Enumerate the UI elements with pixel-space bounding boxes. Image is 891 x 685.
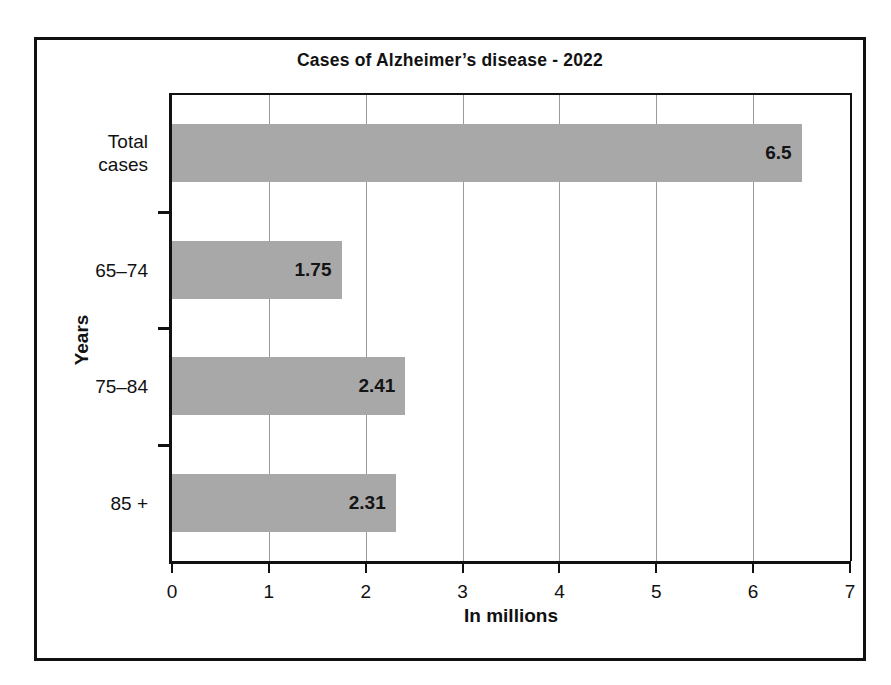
x-axis-tick-label: 4 bbox=[539, 581, 579, 603]
x-axis-tick bbox=[365, 561, 367, 573]
y-axis-category-label: 85 + bbox=[110, 491, 148, 514]
y-axis-category-label: 65–74 bbox=[95, 258, 148, 281]
bar-value-label: 6.5 bbox=[765, 142, 791, 164]
figure-frame: Cases of Alzheimer’s disease - 2022 0123… bbox=[34, 37, 866, 661]
y-axis-tick bbox=[158, 211, 172, 214]
plot-border-top bbox=[172, 93, 850, 95]
y-axis-title: Years bbox=[71, 315, 93, 366]
x-axis-tick bbox=[462, 561, 464, 573]
y-axis-category-label: 75–84 bbox=[95, 375, 148, 398]
bar-row[interactable]: 6.5Total cases bbox=[172, 124, 850, 182]
x-axis-tick-label: 2 bbox=[346, 581, 386, 603]
x-axis-line bbox=[169, 561, 850, 564]
chart-title: Cases of Alzheimer’s disease - 2022 bbox=[37, 50, 863, 71]
x-axis-title: In millions bbox=[172, 605, 850, 627]
x-axis-tick-label: 0 bbox=[152, 581, 192, 603]
x-axis-tick bbox=[849, 561, 851, 573]
plot-area: 01234567 6.5Total cases1.7565–742.4175–8… bbox=[172, 95, 850, 561]
y-axis-category-label: Total cases bbox=[98, 130, 148, 176]
bar-row[interactable]: 2.3185 + bbox=[172, 474, 850, 532]
bar-row[interactable]: 2.4175–84 bbox=[172, 357, 850, 415]
y-axis-tick bbox=[158, 444, 172, 447]
x-axis-tick bbox=[268, 561, 270, 573]
x-axis-tick-label: 6 bbox=[733, 581, 773, 603]
x-axis-tick bbox=[655, 561, 657, 573]
x-axis-tick-label: 1 bbox=[249, 581, 289, 603]
plot-border-right bbox=[850, 93, 852, 561]
x-axis-tick-label: 7 bbox=[830, 581, 870, 603]
bar-value-label: 1.75 bbox=[295, 259, 332, 281]
bar-value-label: 2.31 bbox=[349, 492, 386, 514]
bar[interactable] bbox=[172, 124, 802, 182]
x-axis-tick-label: 3 bbox=[443, 581, 483, 603]
bar-value-label: 2.41 bbox=[358, 375, 395, 397]
x-axis-tick bbox=[752, 561, 754, 573]
x-axis-tick bbox=[558, 561, 560, 573]
x-axis-tick-label: 5 bbox=[636, 581, 676, 603]
bar-row[interactable]: 1.7565–74 bbox=[172, 241, 850, 299]
y-axis-tick bbox=[158, 327, 172, 330]
x-axis-tick bbox=[171, 561, 173, 573]
